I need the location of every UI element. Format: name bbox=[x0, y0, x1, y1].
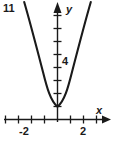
y-axis-arrowhead bbox=[54, 2, 62, 13]
curve-value-label-11: 11 bbox=[3, 3, 15, 14]
x-tick-label-negative-2: -2 bbox=[19, 126, 29, 137]
y-axis-label: y bbox=[66, 4, 72, 15]
x-tick-label-2: 2 bbox=[80, 126, 86, 137]
parabola-graph-figure: 11 y x 4 -2 2 bbox=[0, 0, 113, 146]
x-axis-label: x bbox=[96, 105, 102, 116]
y-tick-label-4: 4 bbox=[62, 56, 68, 67]
x-axis-arrowhead bbox=[102, 116, 111, 124]
graph-canvas bbox=[0, 0, 113, 146]
